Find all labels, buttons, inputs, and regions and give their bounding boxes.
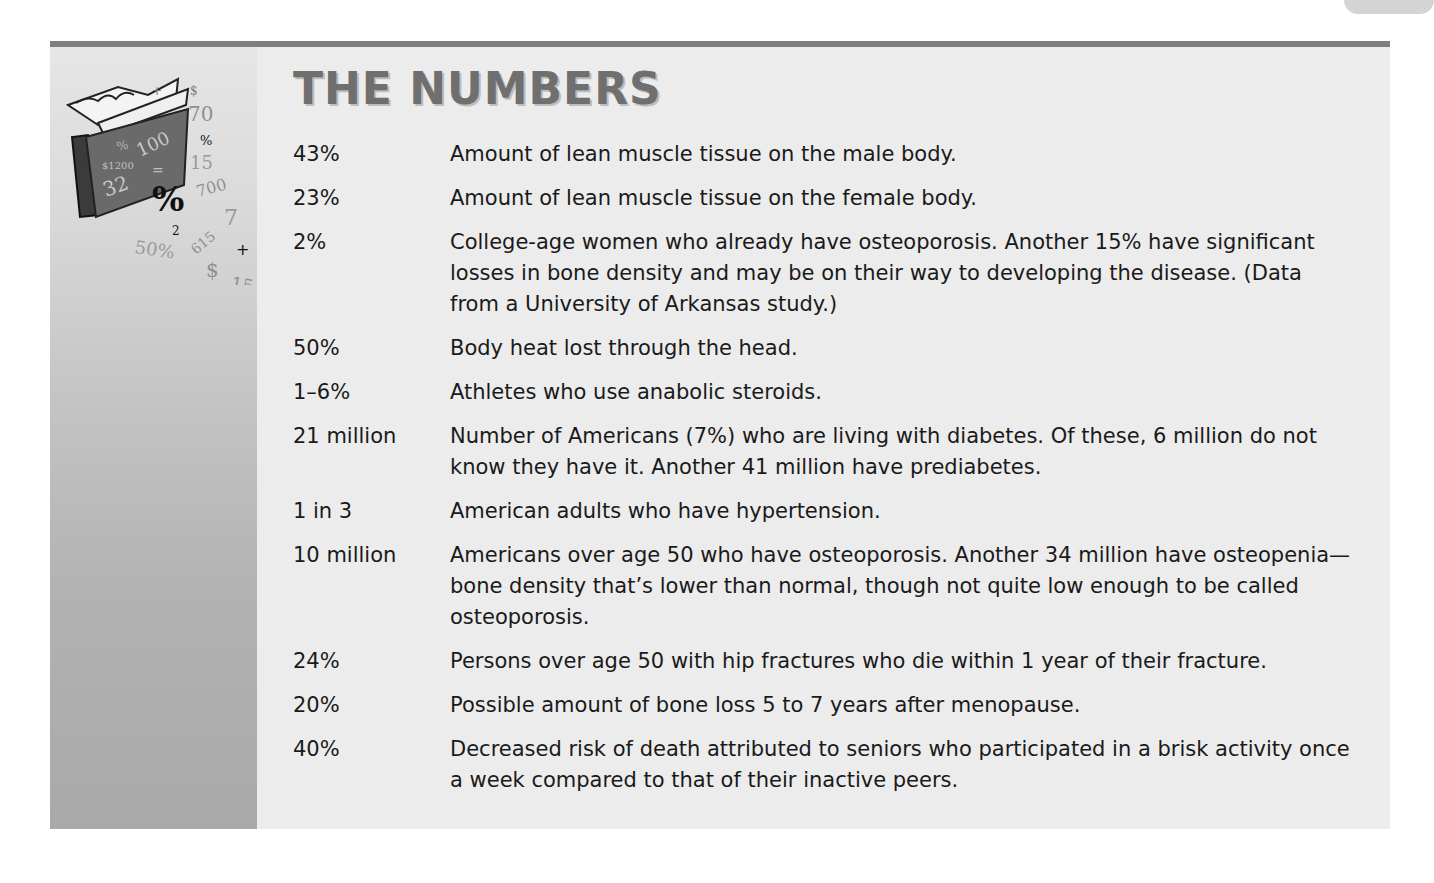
- svg-text:+: +: [236, 240, 249, 259]
- stat-number: 1 in 3: [293, 496, 450, 527]
- stat-number: 50%: [293, 333, 450, 364]
- stat-number: 43%: [293, 139, 450, 170]
- the-numbers-sidebar-box: % 100 $1200 = 32 + $ 70 % 15 % 700 2 7 5…: [50, 41, 1390, 829]
- stat-description: Amount of lean muscle tissue on the fema…: [450, 183, 1353, 214]
- stat-description: Decreased risk of death attributed to se…: [450, 734, 1353, 796]
- svg-text:+: +: [152, 84, 162, 98]
- stat-number: 24%: [293, 646, 450, 677]
- list-item: 1 in 3 American adults who have hyperten…: [293, 496, 1353, 527]
- svg-text:15: 15: [190, 152, 213, 173]
- svg-text:615: 615: [188, 228, 219, 257]
- svg-text:%: %: [152, 179, 184, 219]
- svg-text:2: 2: [172, 224, 180, 238]
- page-corner-tab: [1344, 0, 1434, 14]
- side-gradient-column: % 100 $1200 = 32 + $ 70 % 15 % 700 2 7 5…: [50, 47, 257, 829]
- svg-text:$: $: [206, 258, 219, 282]
- svg-text:700: 700: [194, 175, 228, 201]
- stat-description: Athletes who use anabolic steroids.: [450, 377, 1353, 408]
- stat-description: Persons over age 50 with hip fractures w…: [450, 646, 1353, 677]
- stat-description: Possible amount of bone loss 5 to 7 year…: [450, 690, 1353, 721]
- stat-number: 20%: [293, 690, 450, 721]
- stat-number: 10 million: [293, 540, 450, 571]
- stat-description: College-age women who already have osteo…: [450, 227, 1353, 320]
- list-item: 1–6% Athletes who use anabolic steroids.: [293, 377, 1353, 408]
- section-title: THE NUMBERS: [293, 63, 662, 114]
- list-item: 24% Persons over age 50 with hip fractur…: [293, 646, 1353, 677]
- stat-number: 23%: [293, 183, 450, 214]
- list-item: 2% College-age women who already have os…: [293, 227, 1353, 320]
- list-item: 50% Body heat lost through the head.: [293, 333, 1353, 364]
- stat-description: Number of Americans (7%) who are living …: [450, 421, 1353, 483]
- svg-text:15: 15: [229, 272, 255, 285]
- list-item: 20% Possible amount of bone loss 5 to 7 …: [293, 690, 1353, 721]
- svg-text:50%: 50%: [133, 236, 176, 262]
- list-item: 40% Decreased risk of death attributed t…: [293, 734, 1353, 796]
- stat-description: Amount of lean muscle tissue on the male…: [450, 139, 1353, 170]
- list-item: 43% Amount of lean muscle tissue on the …: [293, 139, 1353, 170]
- stat-description: Body heat lost through the head.: [450, 333, 1353, 364]
- stat-number: 1–6%: [293, 377, 450, 408]
- list-item: 23% Amount of lean muscle tissue on the …: [293, 183, 1353, 214]
- svg-text:%: %: [200, 133, 212, 148]
- svg-text:$: $: [190, 84, 198, 98]
- svg-text:7: 7: [224, 205, 238, 230]
- stat-description: Americans over age 50 who have osteoporo…: [450, 540, 1353, 633]
- stat-number: 21 million: [293, 421, 450, 452]
- folder-with-numbers-icon: % 100 $1200 = 32 + $ 70 % 15 % 700 2 7 5…: [58, 65, 258, 285]
- stat-number: 40%: [293, 734, 450, 765]
- numbers-list: 43% Amount of lean muscle tissue on the …: [293, 139, 1353, 809]
- stat-description: American adults who have hypertension.: [450, 496, 1353, 527]
- svg-text:$1200: $1200: [102, 160, 134, 171]
- stat-number: 2%: [293, 227, 450, 258]
- svg-text:70: 70: [188, 102, 213, 126]
- list-item: 10 million Americans over age 50 who hav…: [293, 540, 1353, 633]
- list-item: 21 million Number of Americans (7%) who …: [293, 421, 1353, 483]
- svg-text:=: =: [152, 162, 164, 178]
